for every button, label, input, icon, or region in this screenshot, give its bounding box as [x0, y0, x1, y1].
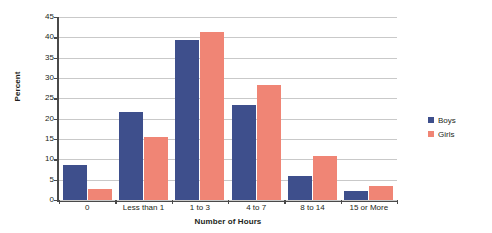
bar-chart: Percent 051015202530354045 0Less than 11… — [0, 0, 492, 233]
gridline — [59, 159, 397, 160]
bar-boys-5 — [344, 191, 368, 200]
bar-boys-1 — [119, 112, 143, 200]
gridline — [59, 37, 397, 38]
y-axis-title: Percent — [13, 57, 22, 117]
y-axis-tick — [54, 78, 58, 79]
bar-girls-1 — [144, 137, 168, 200]
bar-boys-2 — [175, 40, 199, 200]
bar-boys-3 — [232, 105, 256, 200]
bar-girls-5 — [369, 186, 393, 200]
legend-entry-girls[interactable]: Girls — [428, 127, 486, 141]
gridline — [59, 139, 397, 140]
gridline — [59, 119, 397, 120]
legend-label: Boys — [438, 116, 456, 125]
y-axis-tick-label: 10 — [30, 155, 54, 163]
gridline — [59, 17, 397, 18]
y-axis-tick-label: 15 — [30, 135, 54, 143]
x-axis-title: Number of Hours — [59, 217, 397, 226]
x-axis-tick — [397, 200, 398, 204]
x-axis-tick-label: 0 — [59, 203, 115, 213]
gridline — [59, 180, 397, 181]
y-axis-tick — [54, 58, 58, 59]
y-axis-tick-label: 0 — [30, 196, 54, 204]
y-axis-tick — [54, 200, 58, 201]
y-axis-tick-label: 35 — [30, 54, 54, 62]
legend-entry-boys[interactable]: Boys — [428, 113, 486, 127]
chart-legend: BoysGirls — [428, 113, 486, 141]
legend-label: Girls — [438, 130, 454, 139]
y-axis-tick-label: 25 — [30, 94, 54, 102]
y-axis-tick-label: 5 — [30, 176, 54, 184]
y-axis-tick-label: 40 — [30, 33, 54, 41]
y-axis-tick — [54, 180, 58, 181]
bar-girls-3 — [257, 85, 281, 200]
plot-area — [59, 17, 397, 200]
x-axis-tick-label: 8 to 14 — [284, 203, 340, 213]
y-axis-tick — [54, 139, 58, 140]
y-axis-tick — [54, 119, 58, 120]
gridline — [59, 98, 397, 99]
bar-girls-0 — [88, 189, 112, 200]
gridline — [59, 58, 397, 59]
x-axis-tick-label: 15 or More — [341, 203, 397, 213]
bar-girls-4 — [313, 156, 337, 200]
y-axis-tick — [54, 98, 58, 99]
legend-swatch-girls-icon — [428, 131, 434, 137]
x-axis-tick-label: 4 to 7 — [228, 203, 284, 213]
bar-girls-2 — [200, 32, 224, 200]
y-axis-line — [57, 17, 59, 200]
y-axis-tick-label: 30 — [30, 74, 54, 82]
y-axis-tick-labels: 051015202530354045 — [30, 17, 54, 200]
legend-swatch-boys-icon — [428, 117, 434, 123]
y-axis-tick — [54, 159, 58, 160]
y-axis-tick-label: 20 — [30, 115, 54, 123]
x-axis-tick-label: Less than 1 — [115, 203, 171, 213]
y-axis-tick — [54, 37, 58, 38]
x-axis-tick-label: 1 to 3 — [172, 203, 228, 213]
bar-boys-4 — [288, 176, 312, 200]
bar-boys-0 — [63, 165, 87, 200]
y-axis-tick-label: 45 — [30, 13, 54, 21]
gridline — [59, 78, 397, 79]
x-axis-tick-labels: 0Less than 11 to 34 to 78 to 1415 or Mor… — [59, 203, 397, 217]
y-axis-tick — [54, 17, 58, 18]
